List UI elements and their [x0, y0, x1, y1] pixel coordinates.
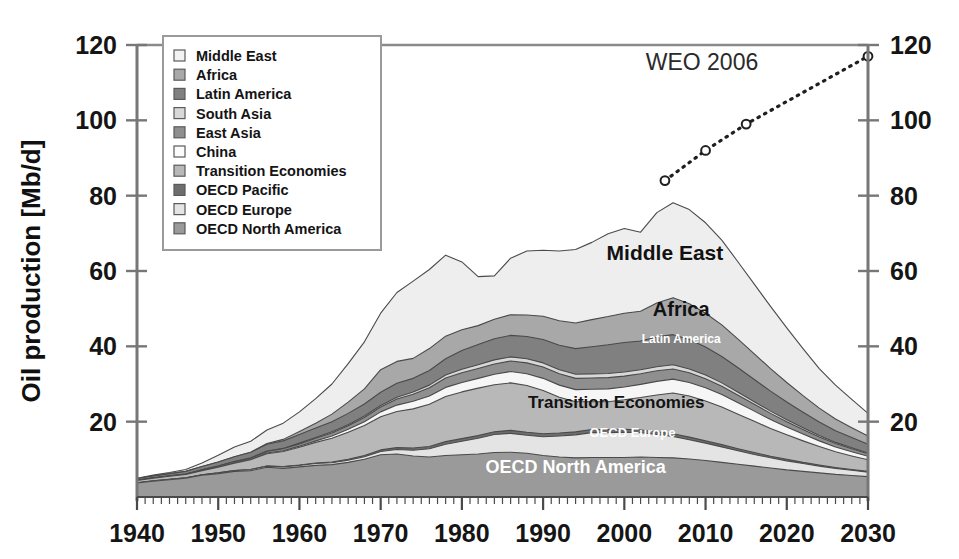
- weo-2006-data-point: [661, 176, 670, 185]
- inline-label-latin-america: Latin America: [642, 332, 721, 346]
- y-tick-label-right-40: 40: [890, 332, 918, 360]
- legend-swatch-transition-economies[interactable]: [174, 165, 185, 176]
- y-tick-label-left-20: 20: [89, 408, 117, 436]
- legend-swatch-oecd-europe[interactable]: [174, 204, 185, 215]
- y-tick-label-left-80: 80: [89, 182, 117, 210]
- weo-2006-data-point: [742, 120, 751, 129]
- y-tick-label-left-60: 60: [89, 257, 117, 285]
- legend-label-oecd-pacific[interactable]: OECD Pacific: [196, 182, 289, 198]
- y-tick-label-left-40: 40: [89, 332, 117, 360]
- weo-2006-data-point: [701, 146, 710, 155]
- x-tick-label-1970: 1970: [353, 519, 409, 547]
- oil-production-stacked-area-chart: WEO 2006 Middle EastAfricaLatin AmericaT…: [0, 0, 959, 559]
- legend-label-africa[interactable]: Africa: [196, 67, 238, 83]
- legend-label-south-asia[interactable]: South Asia: [196, 106, 272, 122]
- legend-label-east-asia[interactable]: East Asia: [196, 125, 262, 141]
- y-tick-label-right-60: 60: [890, 257, 918, 285]
- legend-label-oecd-europe[interactable]: OECD Europe: [196, 202, 292, 218]
- inline-label-transition-economies: Transition Economies: [528, 393, 705, 412]
- y-tick-label-left-100: 100: [75, 106, 117, 134]
- legend-swatch-africa[interactable]: [174, 69, 185, 80]
- y-tick-label-right-120: 120: [890, 31, 932, 59]
- x-tick-label-2030: 2030: [840, 519, 896, 547]
- legend-swatch-oecd-north-america[interactable]: [174, 223, 185, 234]
- x-tick-label-1950: 1950: [190, 519, 246, 547]
- legend-swatch-oecd-pacific[interactable]: [174, 184, 185, 195]
- legend-label-china[interactable]: China: [196, 144, 237, 160]
- legend-label-middle-east[interactable]: Middle East: [196, 48, 277, 64]
- inline-label-oecd-north-america: OECD North America: [485, 457, 666, 477]
- x-tick-label-2020: 2020: [759, 519, 815, 547]
- legend-label-oecd-north-america[interactable]: OECD North America: [196, 221, 342, 237]
- inline-label-middle-east: Middle East: [607, 241, 724, 264]
- legend-swatch-china[interactable]: [174, 146, 185, 157]
- x-tick-label-2000: 2000: [597, 519, 653, 547]
- legend-swatch-east-asia[interactable]: [174, 127, 185, 138]
- chart-legend[interactable]: Middle EastAfricaLatin AmericaSouth Asia…: [163, 36, 381, 250]
- legend-label-transition-economies[interactable]: Transition Economies: [196, 163, 347, 179]
- x-tick-label-1940: 1940: [109, 519, 165, 547]
- weo-2006-annotation-label: WEO 2006: [646, 49, 759, 75]
- legend-swatch-south-asia[interactable]: [174, 108, 185, 119]
- y-tick-label-right-80: 80: [890, 182, 918, 210]
- x-tick-label-2010: 2010: [678, 519, 734, 547]
- legend-label-latin-america[interactable]: Latin America: [196, 86, 292, 102]
- inline-label-oecd-europe: OECD Europe: [589, 425, 675, 440]
- y-tick-label-right-20: 20: [890, 408, 918, 436]
- x-tick-label-1960: 1960: [272, 519, 328, 547]
- legend-swatch-latin-america[interactable]: [174, 88, 185, 99]
- x-tick-label-1980: 1980: [434, 519, 490, 547]
- y-axis-title: Oil production [Mb/d]: [16, 140, 46, 403]
- legend-swatch-middle-east[interactable]: [174, 50, 185, 61]
- chart-canvas: WEO 2006 Middle EastAfricaLatin AmericaT…: [0, 0, 959, 559]
- y-tick-label-left-120: 120: [75, 31, 117, 59]
- y-tick-label-right-100: 100: [890, 106, 932, 134]
- inline-label-africa: Africa: [653, 298, 711, 320]
- x-tick-label-1990: 1990: [515, 519, 571, 547]
